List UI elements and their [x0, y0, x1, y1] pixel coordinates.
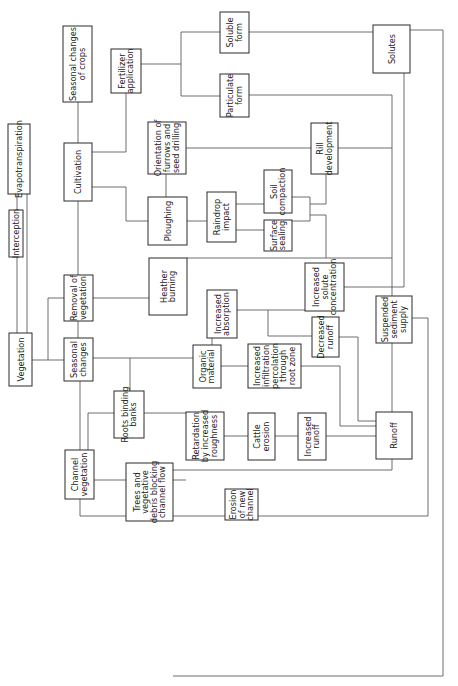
node-solutes: Solutes	[373, 25, 410, 73]
node-label: Removal ofvegetation	[69, 274, 88, 321]
node-erosion-new-channel: Erosionof newchannel	[225, 488, 258, 520]
node-label: Interception	[11, 209, 21, 258]
connector-line	[237, 310, 312, 336]
node-soluble-form: Solubleform	[220, 12, 249, 53]
node-label: Fertilizerapplication	[117, 48, 136, 93]
connector-line	[344, 73, 404, 287]
connector-line	[310, 215, 326, 258]
node-surface-sealing: Surfacesealing	[264, 220, 292, 251]
node-fertilizer-application: Fertilizerapplication	[111, 48, 141, 93]
node-decreased-runoff: Decreasedrunoff	[312, 315, 339, 359]
connector-line	[80, 499, 126, 516]
node-increased-runoff: Increasedrunoff	[298, 413, 326, 460]
node-label: Ploughing	[163, 201, 173, 241]
node-label: Organicmaterial	[198, 349, 217, 383]
node-label: Increasedabsorption	[213, 292, 232, 336]
node-increased-solute-concentration: Increasedsoluteconcentration	[305, 259, 344, 316]
node-cultivation: Cultivation	[64, 143, 92, 201]
node-evapotranspiration: Evapotranspiration	[8, 120, 30, 198]
node-trees-debris: Trees andvegetativedebris blockingchanne…	[126, 461, 173, 523]
connector-line	[48, 298, 64, 360]
node-cattle-erosion: Cattleerosion	[248, 413, 275, 460]
node-organic-material: Organicmaterial	[193, 345, 221, 388]
node-ploughing: Ploughing	[148, 197, 187, 245]
node-label: Evapotranspiration	[14, 120, 24, 198]
node-soil-compaction: Soilcompaction	[264, 168, 292, 216]
node-raindrop-impact: Raindropimpact	[207, 192, 236, 242]
node-interception: Interception	[9, 209, 23, 258]
node-label: Vegetation	[16, 337, 26, 381]
node-removal-of-vegetation: Removal ofvegetation	[64, 274, 93, 321]
soil-erosion-flow-diagram: VegetationInterceptionEvapotranspiration…	[0, 0, 458, 686]
node-roots-binding-banks: Roots bindingbanks	[114, 387, 144, 443]
node-runoff: Runoff	[376, 412, 412, 459]
node-vegetation: Vegetation	[9, 333, 32, 386]
node-label: Orientation offurrows andseed drilling	[153, 119, 180, 177]
node-label: Seasonalchanges	[69, 341, 88, 378]
node-label: Runoff	[389, 422, 399, 449]
connector-line	[310, 174, 326, 204]
node-rill-development: Rilldevelopment	[311, 121, 338, 176]
node-seasonal-changes: Seasonalchanges	[64, 338, 93, 381]
connector-line	[92, 187, 148, 221]
node-increased-infiltration: Increasedinfiltrationpercolationthroughr…	[248, 343, 301, 389]
node-seasonal-changes-crops: Seasonal changesof crops	[63, 26, 92, 102]
node-particulate-form: Particulateform	[220, 74, 249, 118]
node-heather-burning: Heatherburning	[149, 258, 187, 315]
connector-line	[339, 337, 376, 421]
node-label: Heatherburning	[159, 269, 178, 303]
connector-line	[92, 93, 126, 152]
node-suspended-sediment-supply: Suspendedsedimentsupply	[376, 296, 412, 343]
node-label: Solutes	[387, 34, 397, 64]
node-label: Increasedinfiltrationpercolationthroughr…	[252, 343, 296, 389]
node-label: Cultivation	[73, 150, 83, 194]
diagram-nodes: VegetationInterceptionEvapotranspiration…	[8, 12, 412, 523]
node-label: Channelvegetation	[70, 452, 89, 496]
node-label: Raindropimpact	[212, 199, 231, 236]
node-channel-vegetation: Channelvegetation	[65, 450, 94, 499]
node-label: Surfacesealing	[269, 220, 288, 251]
node-increased-absorption: Increasedabsorption	[207, 290, 237, 338]
node-label: Retardationby increasedroughness	[191, 410, 218, 462]
node-retardation: Retardationby increasedroughness	[186, 410, 224, 462]
node-orientation-furrows: Orientation offurrows andseed drilling	[148, 119, 186, 177]
connector-line	[292, 197, 310, 221]
node-label: Cattleerosion	[252, 422, 271, 452]
connector-line	[88, 413, 114, 450]
node-label: Erosionof newchannel	[228, 488, 255, 520]
